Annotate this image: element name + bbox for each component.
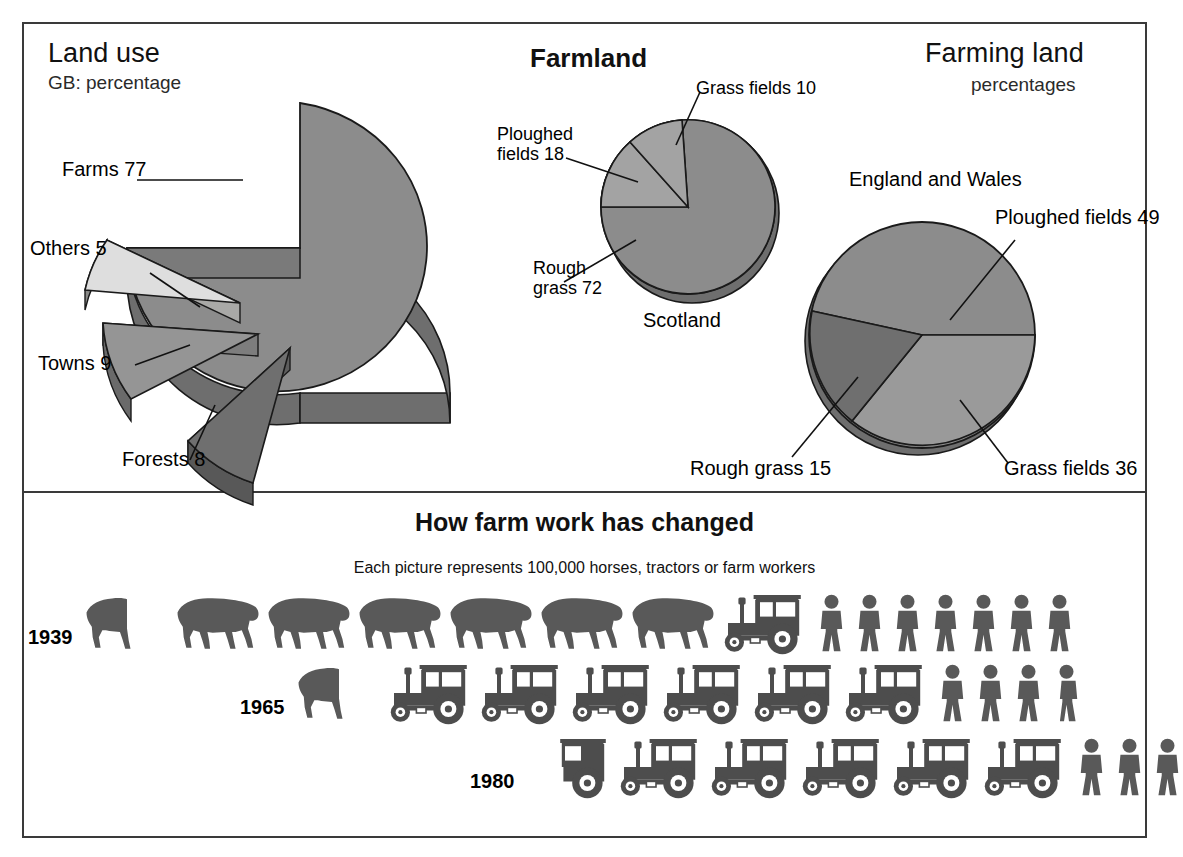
pictogram-tractor-icon <box>720 591 808 655</box>
pictogram-horse-icon <box>629 593 717 655</box>
label-ew-ploughed: Ploughed fields 49 <box>995 206 1160 229</box>
pictogram-worker-icon <box>1050 663 1083 725</box>
pictogram-tractor-icon <box>568 661 656 725</box>
pictogram-horse-icon <box>447 593 535 655</box>
pictogram-worker-icon <box>929 593 962 655</box>
pictogram-worker-icon <box>1075 737 1108 799</box>
label-scotland-ploughed-line2: fields 18 <box>497 144 573 164</box>
pictogram-horse-icon <box>83 593 171 655</box>
england-wales-pie-chart <box>800 205 1130 480</box>
label-scotland-ploughed: Ploughed fields 18 <box>497 124 573 164</box>
pictogram-year-label: 1980 <box>470 770 515 799</box>
pictogram-worker-icon <box>1113 737 1146 799</box>
pictogram-horse-icon <box>265 593 353 655</box>
pictogram-year-label: 1939 <box>28 626 73 655</box>
pictogram-worker-icon <box>1151 737 1183 799</box>
pictogram-tractor-icon <box>659 661 747 725</box>
pictogram-horse-icon <box>356 593 444 655</box>
pictogram-tractor-icon <box>707 735 795 799</box>
label-farms: Farms 77 <box>62 158 146 181</box>
pictogram-tractor-icon <box>477 661 565 725</box>
farming-land-title: Farming land <box>925 38 1084 69</box>
label-others: Others 5 <box>30 237 107 260</box>
label-scotland-rough-line1: Rough <box>533 258 602 278</box>
pictogram-horse-icon <box>538 593 626 655</box>
pictogram-row: 1980 <box>470 735 1183 799</box>
pictogram-worker-icon <box>891 593 924 655</box>
label-scotland-rough: Rough grass 72 <box>533 258 602 298</box>
pictogram-row: 1939 <box>28 591 1081 655</box>
label-forests: Forests 8 <box>122 448 205 471</box>
land-use-pie-chart <box>95 45 515 475</box>
pictogram-tractor-icon <box>616 735 704 799</box>
pictogram-year-label: 1965 <box>240 696 285 725</box>
pictogram-horse-icon <box>295 663 383 725</box>
pictogram-worker-icon <box>1005 593 1038 655</box>
pictogram-tractor-icon <box>889 735 977 799</box>
label-england-wales-region: England and Wales <box>849 168 1022 191</box>
label-scotland-region: Scotland <box>643 309 721 332</box>
pictogram-rows: 193919651980 <box>22 495 1147 838</box>
pictogram-tractor-icon <box>798 735 886 799</box>
label-towns: Towns 9 <box>38 352 111 375</box>
pictogram-worker-icon <box>936 663 969 725</box>
pictogram-row: 1965 <box>240 661 1088 725</box>
label-scotland-ploughed-line1: Ploughed <box>497 124 573 144</box>
pictogram-worker-icon <box>1012 663 1045 725</box>
pictogram-tractor-icon <box>980 735 1068 799</box>
pictogram-tractor-icon <box>750 661 838 725</box>
pictogram-tractor-icon <box>525 735 613 799</box>
pictogram-horse-icon <box>174 593 262 655</box>
label-scotland-grass: Grass fields 10 <box>696 78 816 98</box>
pictogram-worker-icon <box>967 593 1000 655</box>
label-ew-grass: Grass fields 36 <box>1004 457 1137 480</box>
label-scotland-rough-line2: grass 72 <box>533 278 602 298</box>
label-ew-rough: Rough grass 15 <box>690 457 831 480</box>
pictogram-worker-icon <box>853 593 886 655</box>
farming-land-subtitle: percentages <box>971 74 1076 96</box>
pictogram-worker-icon <box>1043 593 1076 655</box>
pictogram-worker-icon <box>815 593 848 655</box>
pictogram-tractor-icon <box>386 661 474 725</box>
pictogram-worker-icon <box>974 663 1007 725</box>
pictogram-tractor-icon <box>841 661 929 725</box>
scotland-pie-chart <box>596 100 786 315</box>
panel-divider <box>22 491 1147 493</box>
farmland-title: Farmland <box>530 43 647 74</box>
